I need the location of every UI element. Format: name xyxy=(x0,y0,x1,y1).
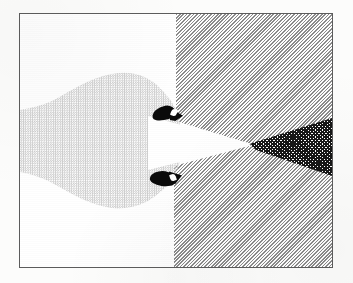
figure-caption xyxy=(0,0,1,1)
scan-page: Halftone flow-visualization figure xyxy=(0,0,353,283)
figure-stage xyxy=(20,14,332,267)
figure-title: Halftone flow-visualization figure xyxy=(0,0,1,1)
figure-frame xyxy=(19,13,333,268)
